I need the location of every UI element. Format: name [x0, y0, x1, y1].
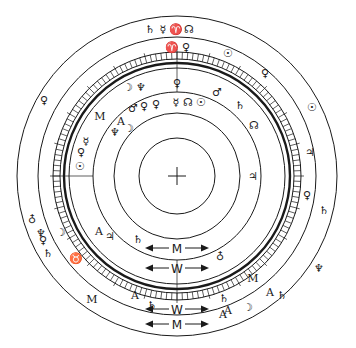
planet-glyph-icon: ♂ [128, 102, 138, 115]
degree-tick [226, 282, 229, 288]
arrow-right-icon [201, 265, 209, 272]
degree-tick [59, 211, 66, 213]
degree-tick [222, 284, 225, 290]
degree-tick [125, 282, 128, 288]
degree-tick [62, 221, 68, 224]
degree-tick [106, 74, 110, 80]
degree-tick [276, 239, 282, 243]
degree-tick [292, 196, 299, 197]
degree-tick [67, 230, 73, 233]
planet-glyph-icon: ☿ [160, 23, 167, 36]
degree-tick [256, 85, 261, 90]
degree-tick [97, 81, 101, 86]
arrow-label: M [172, 242, 182, 256]
planet-glyph-icon: ♀ [173, 77, 181, 90]
planet-glyph-icon: ♆ [136, 81, 146, 94]
planet-glyph-icon: ♀ [152, 98, 160, 111]
degree-tick [166, 293, 167, 300]
degree-tick [226, 64, 229, 70]
degree-tick [67, 119, 73, 122]
degree-tick [54, 206, 64, 209]
degree-tick [248, 78, 252, 84]
planet-glyph-icon: ♄ [145, 23, 155, 36]
planet-glyph-icon: ♂ [212, 86, 222, 99]
degree-tick [197, 54, 198, 61]
planet-glyph-icon: ♁ [28, 212, 36, 225]
degree-tick [231, 66, 234, 72]
degree-tick [155, 54, 156, 61]
degree-tick [79, 247, 85, 251]
degree-tick [212, 288, 214, 295]
degree-tick [290, 143, 300, 146]
planet-glyph-icon: ♀ [303, 189, 311, 202]
arrow-left-icon [145, 245, 153, 252]
degree-tick [110, 275, 114, 281]
degree-tick [120, 280, 123, 286]
degree-tick [207, 53, 210, 63]
degree-tick [202, 290, 204, 297]
planet-glyph-icon: ♄ [235, 99, 245, 112]
planet-glyph-icon: ☽ [56, 226, 66, 239]
planet-glyph-icon: A [130, 289, 140, 302]
planet-glyph-icon: M [94, 110, 105, 123]
degree-tick [270, 101, 276, 105]
degree-tick [120, 66, 123, 72]
planet-glyph-icon: ♄ [277, 289, 287, 302]
degree-tick [86, 92, 91, 97]
degree-tick [135, 59, 137, 66]
arrow-label: W [171, 303, 183, 317]
planet-glyph-icon: ☊ [249, 119, 259, 132]
arrow-label: M [172, 318, 182, 332]
degree-tick [60, 216, 67, 218]
planet-glyph-icon: ♀ [182, 41, 190, 54]
degree-tick [106, 272, 110, 278]
degree-tick [155, 291, 156, 298]
degree-tick [60, 134, 67, 136]
degree-tick [125, 64, 128, 70]
degree-tick [75, 105, 81, 109]
degree-tick [283, 124, 289, 127]
planet-glyph-icon: ☉ [196, 96, 206, 109]
planet-glyph-icon: ♀ [140, 100, 148, 113]
degree-tick [56, 149, 63, 151]
planet-glyph-icon: ♆ [314, 262, 324, 275]
degree-tick [150, 290, 152, 297]
degree-tick [293, 191, 300, 192]
degree-tick [144, 289, 147, 299]
degree-tick [291, 201, 298, 203]
degree-tick [293, 160, 300, 161]
degree-tick [102, 269, 106, 275]
planet-glyph-icon: ♆ [110, 126, 120, 139]
degree-tick [287, 216, 294, 218]
planet-glyph-icon: A [265, 286, 275, 299]
astrological-chart-diagram: ♄☿♈☊♈♀☉♀☉♀☽♆♂♀♀♀☿☊☉♂♄☊MA♆☽☿♀☉♆♄♁♀☽♉A♃♄♁♃… [0, 0, 356, 348]
degree-tick [197, 291, 198, 298]
degree-tick [267, 251, 272, 255]
planet-glyph-icon: ♈ [165, 41, 179, 54]
planet-glyph-icon: ☽ [243, 301, 253, 314]
degree-tick [252, 266, 256, 271]
planet-glyph-icon: ☽ [124, 122, 134, 135]
planet-glyph-icon: M [86, 293, 97, 306]
degree-tick [192, 53, 193, 60]
degree-tick [294, 165, 301, 166]
planet-glyph-icon: ♀ [39, 234, 47, 247]
degree-tick [75, 243, 81, 247]
degree-tick [144, 53, 147, 63]
degree-tick [289, 211, 296, 213]
degree-tick [102, 78, 106, 84]
planet-glyph-icon: ☉ [223, 47, 233, 60]
degree-tick [287, 134, 294, 136]
planet-glyph-icon: ☉ [307, 101, 317, 114]
degree-tick [161, 292, 162, 299]
planet-glyph-icon: ♀ [77, 146, 85, 159]
degree-tick [222, 61, 225, 67]
degree-tick [281, 119, 287, 122]
degree-tick [212, 58, 214, 65]
degree-tick [54, 191, 61, 192]
degree-tick [281, 230, 287, 233]
degree-tick [273, 105, 279, 109]
degree-tick [59, 139, 66, 141]
degree-tick [79, 101, 85, 105]
degree-tick [267, 96, 272, 100]
